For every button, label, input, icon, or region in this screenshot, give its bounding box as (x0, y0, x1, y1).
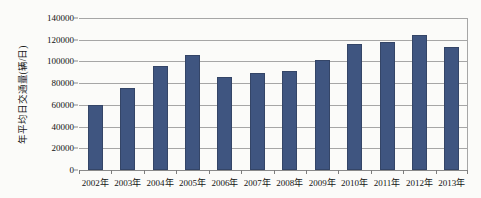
x-tick-slot (436, 170, 468, 175)
y-axis-tick-mark (74, 126, 78, 127)
x-axis-tick-mark (371, 170, 372, 174)
x-axis-label: 2003年 (111, 176, 143, 192)
plot-area (79, 18, 468, 170)
bar-slot (306, 18, 338, 170)
x-tick-slot (111, 170, 143, 175)
x-axis-label: 2010年 (338, 176, 370, 192)
bar[interactable] (153, 66, 168, 170)
x-axis-tick-marks (79, 170, 468, 175)
x-axis-label: 2006年 (209, 176, 241, 192)
x-tick-slot (371, 170, 403, 175)
x-axis-label: 2013年 (436, 176, 468, 192)
x-axis-tick-mark (241, 170, 242, 174)
bar[interactable] (347, 44, 362, 170)
x-tick-slot (176, 170, 208, 175)
bar[interactable] (217, 77, 232, 170)
bar-slot (241, 18, 273, 170)
bar[interactable] (282, 71, 297, 170)
bar-slot (436, 18, 468, 170)
bar-chart-figure: 年平均日交通量(辆/日) 140000120000100000800006000… (0, 0, 481, 198)
x-tick-slot (274, 170, 306, 175)
x-tick-slot (306, 170, 338, 175)
y-axis-tick-mark (74, 170, 78, 171)
y-axis-tick-mark (74, 83, 78, 84)
y-axis-tick-mark (74, 104, 78, 105)
bar-slot (209, 18, 241, 170)
bar-slot (274, 18, 306, 170)
bar-slot (338, 18, 370, 170)
bar[interactable] (412, 35, 427, 170)
bar-slot (144, 18, 176, 170)
bar[interactable] (120, 88, 135, 171)
bar-slot (176, 18, 208, 170)
x-axis-tick-mark (274, 170, 275, 174)
x-axis-tick-mark (176, 170, 177, 174)
x-axis-tick-mark (403, 170, 404, 174)
bar[interactable] (88, 105, 103, 170)
bars-layer (79, 18, 468, 170)
x-axis-tick-mark (209, 170, 210, 174)
x-axis-label: 2008年 (274, 176, 306, 192)
y-axis-tick-mark (74, 148, 78, 149)
y-axis-tick-mark (74, 18, 78, 19)
x-axis-tick-mark (111, 170, 112, 174)
x-tick-slot (79, 170, 111, 175)
y-axis-tick-mark (74, 39, 78, 40)
x-axis-tick-mark (338, 170, 339, 174)
x-axis-tick-mark (144, 170, 145, 174)
x-tick-slot (338, 170, 370, 175)
x-axis-label: 2004年 (144, 176, 176, 192)
x-axis-label: 2005年 (176, 176, 208, 192)
x-axis-tick-mark (467, 170, 468, 174)
x-axis-tick-mark (306, 170, 307, 174)
x-tick-slot (403, 170, 435, 175)
bar-slot (371, 18, 403, 170)
bar-slot (403, 18, 435, 170)
x-axis-tick-mark (436, 170, 437, 174)
y-axis-tick-mark (74, 61, 78, 62)
bar-slot (79, 18, 111, 170)
x-axis-label: 2012年 (403, 176, 435, 192)
bar[interactable] (315, 60, 330, 170)
x-axis-label: 2011年 (371, 176, 403, 192)
x-axis-label: 2007年 (241, 176, 273, 192)
y-axis-tick-marks (0, 18, 79, 170)
x-tick-slot (144, 170, 176, 175)
bar[interactable] (444, 47, 459, 170)
x-axis-tick-mark (79, 170, 80, 174)
bar[interactable] (185, 55, 200, 170)
x-tick-slot (209, 170, 241, 175)
x-axis-label: 2009年 (306, 176, 338, 192)
x-tick-slot (241, 170, 273, 175)
bar-slot (111, 18, 143, 170)
bar[interactable] (380, 42, 395, 170)
x-axis-labels: 2002年2003年2004年2005年2006年2007年2008年2009年… (79, 176, 468, 192)
bar[interactable] (250, 73, 265, 170)
x-axis-label: 2002年 (79, 176, 111, 192)
